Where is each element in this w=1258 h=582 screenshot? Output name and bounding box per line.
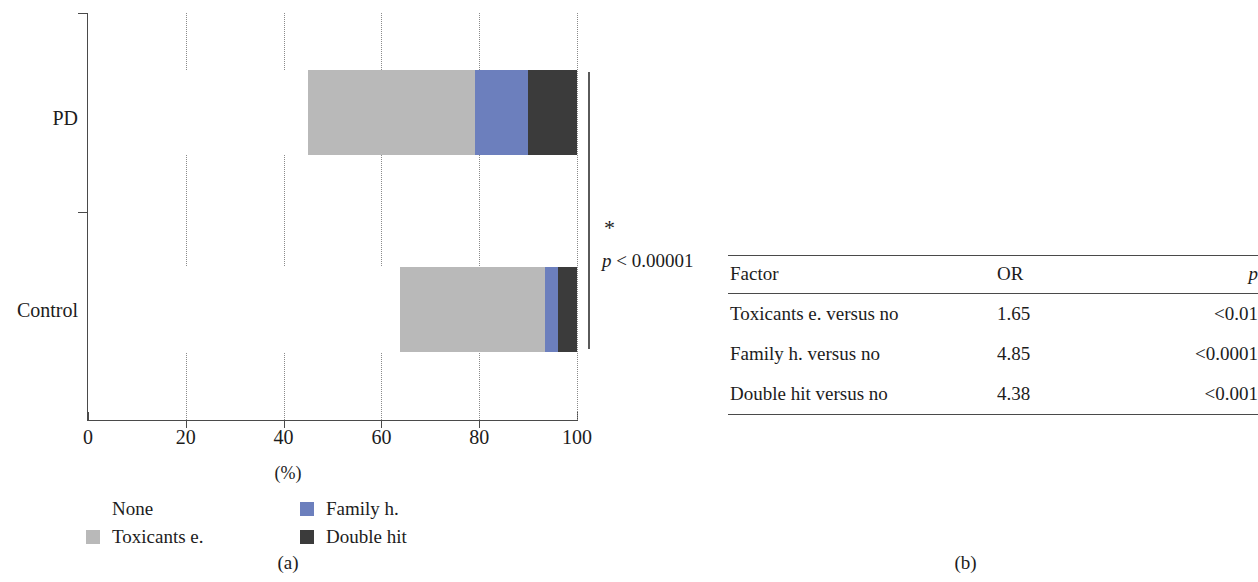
bar-segment-none bbox=[88, 267, 400, 352]
significance-star: * bbox=[604, 218, 615, 238]
y-axis-top-cap bbox=[78, 13, 88, 14]
bar-control bbox=[88, 267, 577, 352]
x-tick-label-40: 40 bbox=[254, 425, 314, 449]
table-header-p: p bbox=[1126, 256, 1258, 294]
table-row: Double hit versus no4.38<0.001 bbox=[728, 374, 1258, 415]
legend-swatch-toxicants-e bbox=[86, 530, 100, 544]
significance-bracket bbox=[588, 72, 590, 349]
x-tick-label-0: 0 bbox=[58, 425, 118, 449]
x-tick-label-80: 80 bbox=[449, 425, 509, 449]
legend-swatch-double-hit bbox=[300, 530, 314, 544]
bar-segment-double-hit bbox=[528, 70, 577, 155]
table-cell-p: <0.01 bbox=[1126, 294, 1258, 335]
table-body: Toxicants e. versus no1.65<0.01Family h.… bbox=[728, 294, 1258, 415]
y-axis-label-control: Control bbox=[2, 298, 78, 322]
y-axis-middle-tick bbox=[78, 212, 88, 213]
gridline-100 bbox=[577, 13, 578, 420]
significance-p-value: p < 0.00001 bbox=[602, 250, 693, 272]
y-axis-label-pd: PD bbox=[8, 106, 78, 130]
bar-segment-toxicants-e bbox=[308, 70, 475, 155]
table-cell-factor: Family h. versus no bbox=[728, 334, 997, 374]
table-cell-factor: Double hit versus no bbox=[728, 374, 997, 415]
bar-pd bbox=[88, 70, 577, 155]
table-cell-or: 4.38 bbox=[997, 374, 1126, 415]
table-header-or: OR bbox=[997, 256, 1126, 294]
legend-item-family-h: Family h. bbox=[300, 496, 399, 522]
results-table: Factor OR p Toxicants e. versus no1.65<0… bbox=[728, 255, 1258, 415]
legend-item-none: None bbox=[86, 496, 153, 522]
bar-segment-family-h bbox=[475, 70, 528, 155]
significance-p-rest: < 0.00001 bbox=[612, 250, 694, 271]
legend-item-double-hit: Double hit bbox=[300, 524, 407, 550]
table-head: Factor OR p bbox=[728, 256, 1258, 294]
x-tick-label-60: 60 bbox=[351, 425, 411, 449]
panel-a-caption: (a) bbox=[0, 552, 576, 574]
table-row: Family h. versus no4.85<0.0001 bbox=[728, 334, 1258, 374]
x-axis-line bbox=[88, 420, 578, 421]
significance-p-italic: p bbox=[602, 250, 612, 271]
table-cell-or: 1.65 bbox=[997, 294, 1126, 335]
bar-segment-family-h bbox=[545, 267, 558, 352]
legend-label-none: None bbox=[112, 498, 153, 520]
panel-b-caption: (b) bbox=[700, 552, 1231, 574]
table-header-row: Factor OR p bbox=[728, 256, 1258, 294]
table-cell-p: <0.0001 bbox=[1126, 334, 1258, 374]
legend-item-toxicants-e: Toxicants e. bbox=[86, 524, 204, 550]
table-cell-or: 4.85 bbox=[997, 334, 1126, 374]
table-row: Toxicants e. versus no1.65<0.01 bbox=[728, 294, 1258, 335]
bar-segment-toxicants-e bbox=[400, 267, 545, 352]
figure-panel-a: 020406080100 (%) PD Control * p < 0.0000… bbox=[0, 0, 700, 582]
x-axis-title: (%) bbox=[0, 463, 576, 484]
bar-segment-none bbox=[88, 70, 308, 155]
legend-label-double-hit: Double hit bbox=[326, 526, 407, 548]
legend-swatch-none bbox=[86, 502, 100, 516]
legend-label-toxicants-e: Toxicants e. bbox=[112, 526, 204, 548]
x-axis-left-cap bbox=[88, 412, 89, 421]
legend-swatch-family-h bbox=[300, 502, 314, 516]
legend-label-family-h: Family h. bbox=[326, 498, 399, 520]
figure-panel-b: Factor OR p Toxicants e. versus no1.65<0… bbox=[700, 0, 1231, 582]
bar-segment-double-hit bbox=[558, 267, 577, 352]
table-cell-factor: Toxicants e. versus no bbox=[728, 294, 997, 335]
x-tick-label-100: 100 bbox=[547, 425, 607, 449]
x-tick-label-20: 20 bbox=[156, 425, 216, 449]
table-cell-p: <0.001 bbox=[1126, 374, 1258, 415]
table-header-factor: Factor bbox=[728, 256, 997, 294]
